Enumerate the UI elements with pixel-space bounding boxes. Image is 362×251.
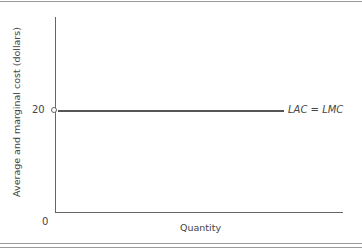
y-axis (55, 17, 56, 213)
lac-lmc-line (58, 110, 284, 112)
top-rule (0, 1, 362, 2)
origin-tick-0: 0 (42, 216, 48, 227)
open-circle-marker (51, 107, 57, 113)
series-label: LAC = LMC (288, 104, 343, 115)
bottom-rule-double (0, 247, 362, 248)
y-axis-label: Average and marginal cost (dollars) (11, 27, 22, 197)
bottom-rule (0, 243, 362, 244)
x-axis-label: Quantity (180, 222, 221, 233)
y-tick-20: 20 (32, 104, 45, 115)
x-axis (55, 212, 343, 213)
